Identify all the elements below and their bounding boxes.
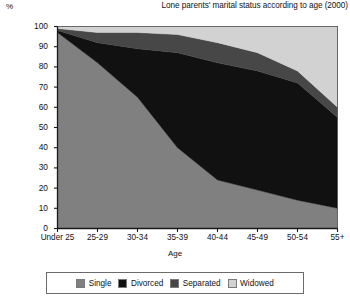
legend-item-widowed[interactable]: Widowed <box>228 279 274 288</box>
legend-item-divorced[interactable]: Divorced <box>118 279 163 288</box>
y-tick-label: 80 <box>22 61 48 71</box>
y-tick-label: 70 <box>22 82 48 92</box>
y-tick-label: 90 <box>22 41 48 51</box>
y-tick-label: 100 <box>22 21 48 31</box>
y-tick-label: 30 <box>22 162 48 172</box>
y-tick-label: 40 <box>22 142 48 152</box>
legend-swatch-icon <box>76 279 85 288</box>
y-tick-label: 50 <box>22 122 48 132</box>
legend-item-separated[interactable]: Separated <box>170 279 220 288</box>
legend-label: Single <box>89 279 112 288</box>
legend-swatch-icon <box>228 279 237 288</box>
chart-container: % Lone parents' marital status according… <box>0 0 350 302</box>
legend-label: Widowed <box>240 279 274 288</box>
x-tick-label: 55+ <box>303 233 350 242</box>
y-tick-label: 10 <box>22 203 48 213</box>
y-tick-label: 0 <box>22 223 48 233</box>
legend-swatch-icon <box>170 279 179 288</box>
legend-swatch-icon <box>118 279 127 288</box>
x-axis-title: Age <box>0 249 350 258</box>
legend-label: Separated <box>183 279 221 288</box>
chart-legend: SingleDivorcedSeparatedWidowed <box>46 272 304 294</box>
legend-label: Divorced <box>131 279 163 288</box>
y-tick-label: 20 <box>22 183 48 193</box>
legend-item-single[interactable]: Single <box>76 279 111 288</box>
y-tick-label: 60 <box>22 102 48 112</box>
area-series-group <box>58 27 338 229</box>
